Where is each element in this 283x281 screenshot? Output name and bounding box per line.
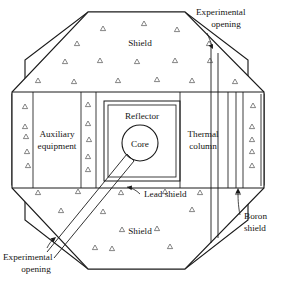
label-boron-line2: shield — [244, 223, 266, 233]
label-experimental-bottom-line2: opening — [21, 264, 51, 274]
label-reflector: Reflector — [125, 111, 159, 121]
label-shield-bottom: Shield — [128, 226, 152, 236]
label-shield-top: Shield — [128, 38, 152, 48]
label-experimental-bottom-line1: Experimental — [3, 252, 53, 262]
label-auxiliary-line1: Auxiliary — [39, 129, 75, 139]
reactor-schematic-svg: Shield Shield Reflector Core Auxiliary e… — [0, 0, 283, 281]
label-thermal-line1: Thermal — [187, 129, 219, 139]
label-experimental-top-line2: opening — [211, 19, 241, 29]
label-lead-shield: Lead shield — [144, 189, 187, 199]
label-thermal-line2: column — [189, 141, 217, 151]
reactor-diagram: Shield Shield Reflector Core Auxiliary e… — [0, 0, 283, 281]
label-boron-line1: Boron — [244, 211, 267, 221]
label-experimental-top-line1: Experimental — [196, 7, 246, 17]
label-core: Core — [131, 139, 149, 149]
label-auxiliary-line2: equipment — [38, 141, 77, 151]
